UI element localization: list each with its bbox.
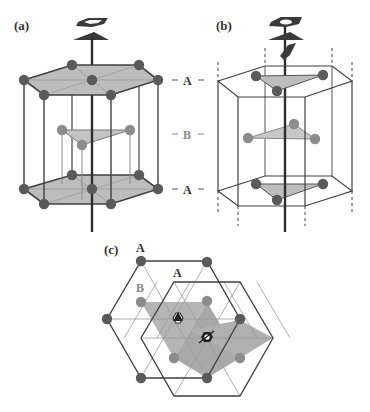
panel-c-label-a2: A xyxy=(173,266,182,280)
panel-b-label: (b) xyxy=(216,18,232,33)
layer-label-top-a: A xyxy=(183,74,192,88)
layer-labels: A B A xyxy=(172,74,204,197)
panel-c-label: (c) xyxy=(104,242,118,257)
hcp-structure-figure: (a) xyxy=(0,0,370,412)
panel-a-label: (a) xyxy=(14,18,29,33)
panel-b: (b) xyxy=(216,17,352,232)
panel-c: (c) A A B xyxy=(102,241,290,396)
panel-a: (a) xyxy=(14,18,163,232)
layer-label-middle-b: B xyxy=(183,128,191,142)
bottom-a-triangle xyxy=(256,184,323,200)
layer-label-bottom-a: A xyxy=(183,183,192,197)
panel-c-label-b: B xyxy=(136,281,144,295)
six-fold-screw-icon xyxy=(73,18,109,40)
panel-c-label-a1: A xyxy=(136,241,145,255)
three-fold-axis-icon xyxy=(268,17,304,60)
top-a-triangle xyxy=(256,75,323,91)
